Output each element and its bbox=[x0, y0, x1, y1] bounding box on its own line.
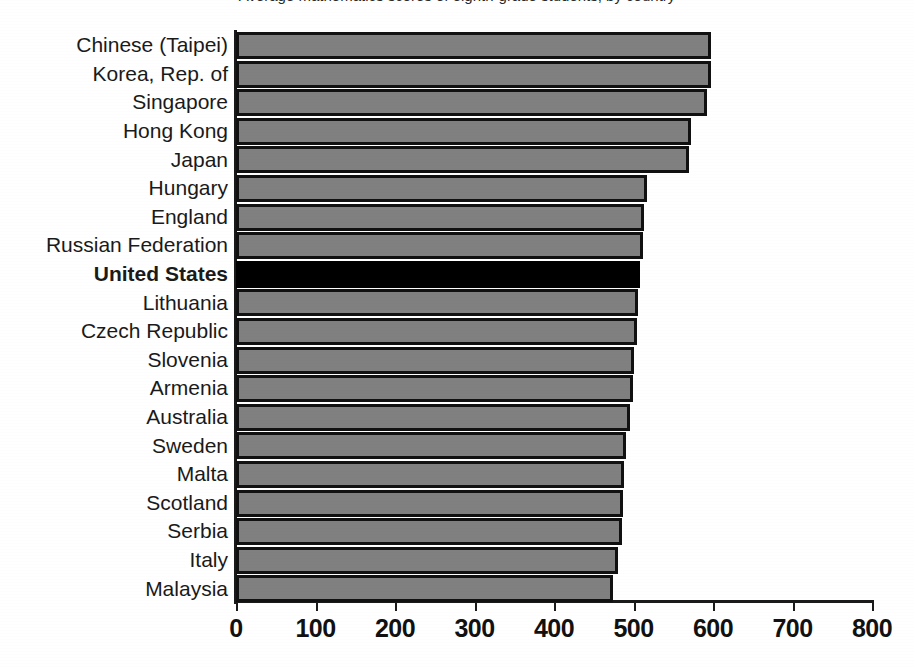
category-label: Malta bbox=[177, 462, 228, 485]
x-axis-tick bbox=[475, 603, 477, 611]
category-label: Lithuania bbox=[143, 290, 228, 313]
chart-title: Average mathematics scores of eighth-gra… bbox=[0, 0, 914, 5]
category-label: Russian Federation bbox=[46, 233, 228, 256]
bar-row: Serbia bbox=[0, 516, 914, 545]
category-label: Scotland bbox=[146, 490, 228, 513]
bar bbox=[236, 32, 711, 59]
category-label: Slovenia bbox=[147, 347, 228, 370]
bar-row: Armenia bbox=[0, 373, 914, 402]
x-axis-tick-label: 500 bbox=[594, 614, 674, 643]
category-label: Malaysia bbox=[145, 576, 228, 599]
bar-row: Sweden bbox=[0, 430, 914, 459]
bar bbox=[236, 547, 618, 574]
bar-row: England bbox=[0, 202, 914, 231]
x-axis-tick-label: 600 bbox=[673, 614, 753, 643]
x-axis-tick-label: 0 bbox=[196, 614, 276, 643]
bar-row: Czech Republic bbox=[0, 316, 914, 345]
bar bbox=[236, 175, 647, 202]
category-label: Japan bbox=[171, 147, 228, 170]
bar-row: Korea, Rep. of bbox=[0, 59, 914, 88]
x-axis-tick bbox=[236, 603, 238, 611]
bar bbox=[236, 232, 643, 259]
x-axis-tick-label: 100 bbox=[276, 614, 356, 643]
x-axis-tick bbox=[395, 603, 397, 611]
category-label: Sweden bbox=[152, 433, 228, 456]
x-axis-tick bbox=[793, 603, 795, 611]
bar-row: Chinese (Taipei) bbox=[0, 30, 914, 59]
category-label: Armenia bbox=[150, 376, 228, 399]
x-axis-tick-label: 400 bbox=[514, 614, 594, 643]
x-axis-tick bbox=[634, 603, 636, 611]
bar-row: Lithuania bbox=[0, 287, 914, 316]
x-axis-tick bbox=[316, 603, 318, 611]
category-label: Czech Republic bbox=[81, 319, 228, 342]
category-label: England bbox=[151, 204, 228, 227]
bar-row: Malaysia bbox=[0, 573, 914, 602]
bar bbox=[236, 347, 634, 374]
bar-chart: Average mathematics scores of eighth-gra… bbox=[0, 0, 914, 667]
category-label: Serbia bbox=[167, 519, 228, 542]
bar bbox=[236, 118, 691, 145]
category-label: Hungary bbox=[149, 176, 228, 199]
x-axis-tick bbox=[554, 603, 556, 611]
bar bbox=[236, 432, 626, 459]
bar-row: Italy bbox=[0, 545, 914, 574]
bar bbox=[236, 490, 623, 517]
bar-row: United States bbox=[0, 259, 914, 288]
bar bbox=[236, 518, 622, 545]
bar bbox=[236, 204, 644, 231]
bar bbox=[236, 575, 613, 602]
bar-row: Scotland bbox=[0, 488, 914, 517]
bar-row: Australia bbox=[0, 402, 914, 431]
category-label: Australia bbox=[146, 405, 228, 428]
bar-row: Hong Kong bbox=[0, 116, 914, 145]
x-axis-tick-label: 800 bbox=[832, 614, 912, 643]
bar-row: Slovenia bbox=[0, 345, 914, 374]
bar bbox=[236, 375, 633, 402]
bar bbox=[236, 289, 638, 316]
category-label: United States bbox=[94, 262, 228, 285]
category-label: Singapore bbox=[132, 90, 228, 113]
bar bbox=[236, 61, 711, 88]
bar-row: Japan bbox=[0, 144, 914, 173]
bar bbox=[236, 146, 689, 173]
bar bbox=[236, 261, 640, 288]
bar bbox=[236, 404, 630, 431]
bar-row: Russian Federation bbox=[0, 230, 914, 259]
x-axis-tick bbox=[872, 603, 874, 611]
category-label: Korea, Rep. of bbox=[93, 61, 228, 84]
x-axis-tick-label: 700 bbox=[753, 614, 833, 643]
x-axis-tick-label: 200 bbox=[355, 614, 435, 643]
bar-row: Hungary bbox=[0, 173, 914, 202]
category-label: Italy bbox=[189, 548, 228, 571]
x-axis-tick-label: 300 bbox=[435, 614, 515, 643]
bar bbox=[236, 461, 624, 488]
bar bbox=[236, 318, 637, 345]
bar bbox=[236, 89, 707, 116]
bar-row: Malta bbox=[0, 459, 914, 488]
category-label: Hong Kong bbox=[123, 119, 228, 142]
category-label: Chinese (Taipei) bbox=[76, 33, 228, 56]
x-axis-tick bbox=[713, 603, 715, 611]
bar-row: Singapore bbox=[0, 87, 914, 116]
